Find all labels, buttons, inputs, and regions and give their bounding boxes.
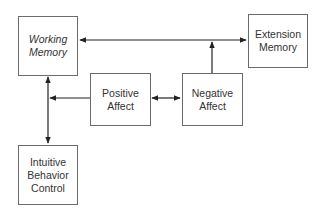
node-label-line: Negative [192, 87, 233, 100]
node-intuitive-behavior-control: Intuitive Behavior Control [18, 145, 78, 205]
node-negative-affect: Negative Affect [182, 73, 243, 126]
node-label-line: Working [29, 33, 68, 46]
node-extension-memory: Extension Memory [248, 14, 308, 68]
node-label-line: Memory [259, 41, 297, 54]
node-label-line: Affect [107, 100, 134, 113]
node-label-line: Extension [255, 28, 301, 41]
node-label-line: Behavior [27, 169, 68, 182]
node-label-line: Affect [199, 100, 226, 113]
node-label-line: Intuitive [30, 156, 66, 169]
node-label-line: Positive [102, 87, 139, 100]
node-label-line: Memory [29, 46, 67, 59]
node-working-memory: Working Memory [18, 16, 78, 76]
node-label-line: Control [31, 182, 65, 195]
node-positive-affect: Positive Affect [90, 73, 151, 126]
